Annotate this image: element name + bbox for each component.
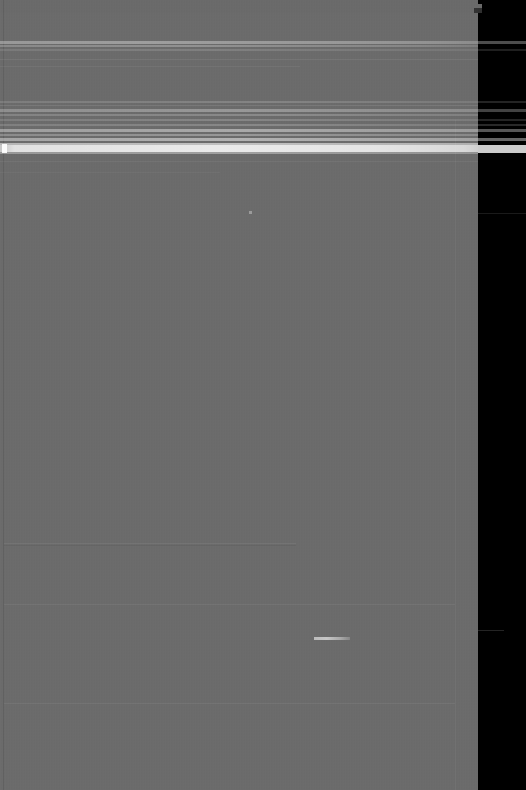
- right-gutter-smear-4: [478, 109, 526, 112]
- right-gutter-smear-5: [478, 119, 526, 121]
- right-gutter-smear-10: [478, 213, 526, 214]
- window-corner-notch: [478, 0, 482, 4]
- window-left-border: [3, 0, 4, 790]
- right-gutter-smear-1: [478, 41, 526, 44]
- window-top-edge-sliver: [0, 0, 482, 13]
- right-gutter-smear-8: [478, 138, 526, 141]
- application-window-panel: [0, 12, 478, 790]
- window-corner-notch-step: [474, 8, 482, 13]
- right-gutter-smear-9: [478, 145, 526, 153]
- right-gutter-smear-7: [478, 129, 526, 132]
- smear-band-end-nub: [2, 144, 7, 153]
- right-gutter-smear-2: [478, 49, 526, 51]
- screenshot-canvas: Severely horizontally motion-blurred scr…: [0, 0, 526, 790]
- window-right-inner-border: [455, 120, 456, 790]
- right-gutter-smear-11: [478, 630, 504, 631]
- right-gutter-smear-3: [478, 101, 526, 103]
- right-gutter-smear-6: [478, 124, 526, 126]
